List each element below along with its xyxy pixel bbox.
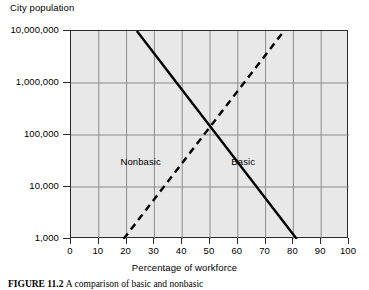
x-tick-mark — [181, 238, 182, 244]
plot-area: BasicNonbasic — [70, 30, 348, 238]
y-tick-label: 10,000,000 — [10, 25, 59, 35]
x-tick-mark — [265, 238, 266, 244]
y-tick-mark — [63, 82, 70, 83]
y-tick-label: 100,000 — [24, 129, 59, 139]
series-label-nonbasic: Nonbasic — [121, 157, 161, 167]
x-tick-mark — [348, 238, 349, 244]
figure-caption: FIGURE 11.2 A comparison of basic and no… — [8, 279, 363, 290]
y-tick-mark — [63, 30, 70, 31]
y-tick-mark — [63, 134, 70, 135]
series-label-basic: Basic — [231, 157, 255, 167]
x-tick-mark — [70, 238, 71, 244]
x-tick-mark — [126, 238, 127, 244]
figure-chart: City population 1,00010,000100,0001,000,… — [0, 0, 369, 290]
x-tick-mark — [98, 238, 99, 244]
x-tick-mark — [292, 238, 293, 244]
figure-caption-body: A comparison of basic and nonbasic — [66, 279, 203, 289]
gridlines — [71, 31, 349, 239]
y-tick-label: 1,000,000 — [16, 77, 59, 87]
x-tick-mark — [153, 238, 154, 244]
figure-caption-label: FIGURE 11.2 — [8, 279, 63, 289]
y-axis-title: City population — [10, 2, 74, 14]
x-tick-mark — [320, 238, 321, 244]
x-tick-mark — [237, 238, 238, 244]
y-tick-label: 10,000 — [29, 181, 59, 191]
plot-svg — [71, 31, 349, 239]
x-tick-label: 100 — [328, 246, 368, 256]
y-tick-mark — [63, 238, 70, 239]
x-tick-mark — [209, 238, 210, 244]
y-tick-mark — [63, 186, 70, 187]
y-tick-label: 1,000 — [35, 233, 59, 243]
x-axis-title: Percentage of workforce — [0, 262, 369, 274]
